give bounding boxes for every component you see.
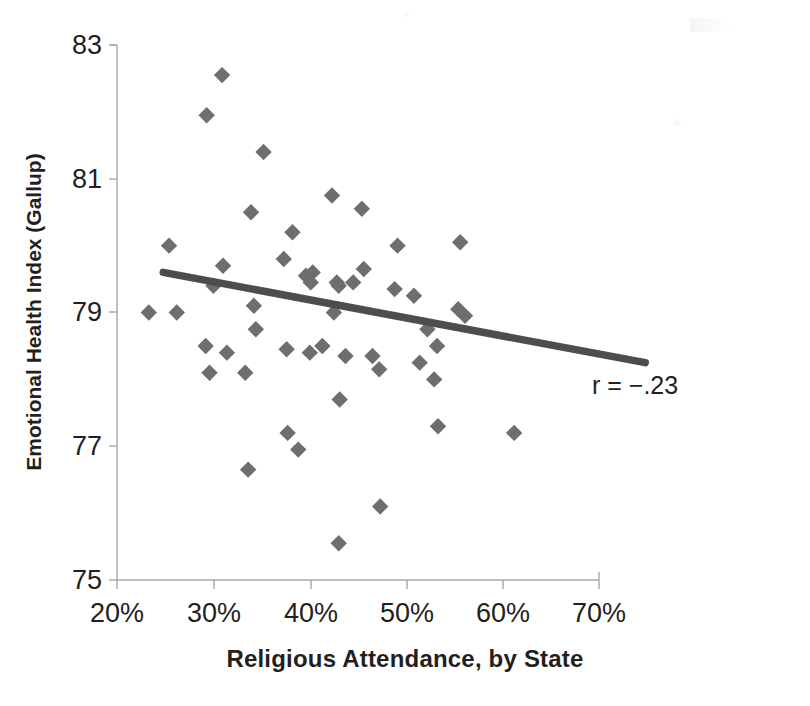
scatter-point: [345, 274, 361, 290]
trendline: [163, 272, 645, 362]
scatter-point: [240, 461, 256, 477]
scatter-point: [161, 237, 177, 253]
scatter-point: [371, 361, 387, 377]
scatter-point: [243, 204, 259, 220]
scatter-point: [248, 321, 264, 337]
scatter-point: [356, 261, 372, 277]
scatter-point: [279, 425, 295, 441]
scatter-point: [331, 391, 347, 407]
scatter-point: [141, 304, 157, 320]
scatter-point: [430, 418, 446, 434]
scatter-point: [215, 257, 231, 273]
scatter-point: [411, 354, 427, 370]
scatter-point: [324, 187, 340, 203]
scatter-point: [506, 425, 522, 441]
plot-canvas: [0, 0, 810, 706]
scatter-point: [354, 201, 370, 217]
scatter-plot-figure: 83 81 79 77 75 20% 30% 40% 50% 60% 70% E…: [0, 0, 810, 706]
scatter-point: [214, 67, 230, 83]
scatter-point: [219, 344, 235, 360]
scatter-point: [452, 234, 468, 250]
scatter-point: [278, 341, 294, 357]
scatter-point: [389, 237, 405, 253]
x-axis-ticks: [117, 580, 599, 589]
scatter-point: [169, 304, 185, 320]
scatter-point: [237, 364, 253, 380]
scatter-point: [386, 281, 402, 297]
scatter-point: [246, 298, 262, 314]
scatter-point: [364, 348, 380, 364]
scatter-marker-group: [141, 67, 523, 552]
scatter-point: [337, 348, 353, 364]
scatter-point: [197, 338, 213, 354]
scatter-point: [429, 338, 445, 354]
scatter-point: [201, 364, 217, 380]
scatter-point: [198, 107, 214, 123]
scatter-point: [255, 144, 271, 160]
scatter-point: [372, 498, 388, 514]
scatter-point: [290, 441, 306, 457]
scatter-point: [331, 535, 347, 551]
scatter-point: [406, 288, 422, 304]
scatter-point: [284, 224, 300, 240]
scatter-point: [276, 251, 292, 267]
y-axis-ticks: [109, 45, 117, 580]
scatter-point: [426, 371, 442, 387]
